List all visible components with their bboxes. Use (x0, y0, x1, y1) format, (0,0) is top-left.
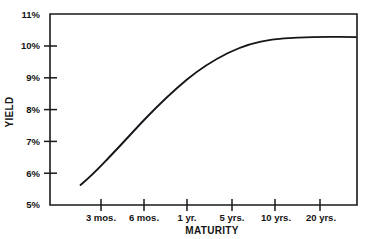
x-tick-label-20-yrs: 20 yrs. (306, 212, 336, 223)
yield-curve-figure: 5% 6% 7% 8% 9% 10% 11% 3 mos. 6 mos. 1 y… (0, 0, 373, 239)
chart-canvas: 5% 6% 7% 8% 9% 10% 11% 3 mos. 6 mos. 1 y… (0, 0, 373, 239)
y-tick-label-10: 10% (21, 40, 41, 51)
x-tick-label-6-mos: 6 mos. (129, 212, 159, 223)
y-tick-label-6: 6% (26, 168, 40, 179)
y-tick-label-11: 11% (22, 9, 41, 20)
x-tick-label-10-yrs: 10 yrs. (261, 212, 291, 223)
y-axis-title: YIELD (4, 97, 15, 128)
x-tick-label-5-yrs: 5 yrs. (220, 212, 245, 223)
y-tick-label-8: 8% (26, 104, 40, 115)
plot-frame (50, 14, 357, 205)
y-tick-label-9: 9% (26, 72, 40, 83)
y-tick-label-5: 5% (26, 199, 40, 210)
x-tick-label-1-yr: 1 yr. (177, 212, 196, 223)
yield-curve-line (81, 37, 357, 185)
x-tick-label-3-mos: 3 mos. (86, 212, 116, 223)
y-tick-label-7: 7% (26, 136, 40, 147)
x-axis-title: MATURITY (185, 225, 238, 236)
